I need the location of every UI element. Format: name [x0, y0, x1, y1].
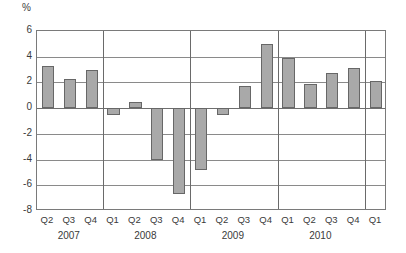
y-tick-label: 2 — [0, 76, 32, 86]
bars-group — [37, 31, 385, 209]
x-tick-label: Q3 — [233, 214, 255, 225]
year-label: 2007 — [36, 230, 102, 241]
x-tick-label: Q2 — [36, 214, 58, 225]
x-tick-label: Q2 — [299, 214, 321, 225]
plot-area — [36, 30, 386, 210]
bar — [217, 108, 229, 114]
year-label: 2008 — [102, 230, 190, 241]
bar — [107, 108, 119, 114]
bar — [195, 108, 207, 170]
x-tick-label: Q2 — [124, 214, 146, 225]
y-tick-label: -6 — [0, 179, 32, 189]
x-tick-label: Q1 — [189, 214, 211, 225]
x-tick-label: Q4 — [342, 214, 364, 225]
bar — [42, 66, 54, 108]
x-tick-label: Q4 — [255, 214, 277, 225]
y-tick-label: 0 — [0, 102, 32, 112]
x-tick-label: Q4 — [80, 214, 102, 225]
bar — [239, 86, 251, 108]
x-tick-label: Q3 — [58, 214, 80, 225]
x-tick-label: Q2 — [211, 214, 233, 225]
bar — [304, 84, 316, 108]
x-tick-label: Q1 — [364, 214, 386, 225]
x-tick-label: Q3 — [320, 214, 342, 225]
y-tick-label: -4 — [0, 154, 32, 164]
y-tick-label: -2 — [0, 128, 32, 138]
x-tick-label: Q3 — [145, 214, 167, 225]
bar — [64, 79, 76, 109]
bar — [151, 108, 163, 159]
bar — [261, 44, 273, 108]
x-tick-label: Q4 — [167, 214, 189, 225]
bar — [173, 108, 185, 194]
bar — [348, 68, 360, 108]
quarterly-percentage-bar-chart: % 6420-2-4-6-8 Q2Q3Q4Q1Q2Q3Q4Q1Q2Q3Q4Q1Q… — [0, 0, 406, 253]
x-tick-label: Q1 — [102, 214, 124, 225]
x-tick-label: Q1 — [277, 214, 299, 225]
bar — [282, 58, 294, 108]
y-tick-label: 4 — [0, 51, 32, 61]
bar — [129, 102, 141, 108]
y-axis-unit-label: % — [22, 3, 31, 13]
y-tick-label: -8 — [0, 205, 32, 215]
year-label: 2010 — [277, 230, 365, 241]
y-tick-label: 6 — [0, 25, 32, 35]
bar — [86, 70, 98, 109]
year-label: 2009 — [189, 230, 277, 241]
bar — [370, 81, 382, 108]
bar — [326, 73, 338, 108]
